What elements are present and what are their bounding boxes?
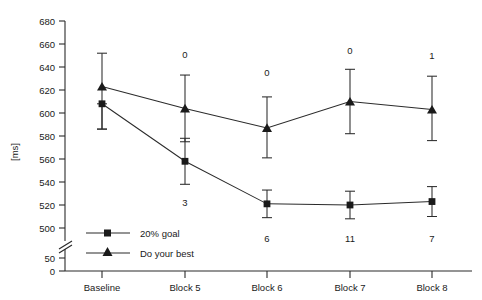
y-tick-label: 500 xyxy=(39,223,55,234)
y-tick-label: 680 xyxy=(39,16,55,27)
chart-container: [ms] xyxy=(0,0,482,300)
chart-background xyxy=(0,0,482,300)
line-chart: [ms] xyxy=(0,0,482,300)
y-tick-label: 580 xyxy=(39,131,55,142)
square-marker xyxy=(104,230,111,237)
annotation-top-block8: 1 xyxy=(429,50,434,61)
x-tick-label-baseline: Baseline xyxy=(84,282,120,293)
y-axis-title-text: [ms] xyxy=(9,143,20,161)
annotation-bottom-block5: 3 xyxy=(182,197,187,208)
data-point-square xyxy=(182,158,189,165)
annotation-top-block6: 0 xyxy=(264,67,269,78)
annotation-bottom-block7: 11 xyxy=(345,233,355,244)
data-point-square xyxy=(347,202,354,209)
x-tick-label-block7: Block 7 xyxy=(334,282,365,293)
annotation-top-block7: 0 xyxy=(347,45,352,56)
y-tick-label: 0 xyxy=(50,266,55,277)
y-tick-label: 600 xyxy=(39,108,55,119)
x-tick-label-block5: Block 5 xyxy=(169,282,200,293)
legend-label-dyb: Do your best xyxy=(140,248,194,259)
annotation-bottom-block6: 6 xyxy=(264,233,269,244)
y-tick-label: 540 xyxy=(39,177,55,188)
y-tick-label: 640 xyxy=(39,62,55,73)
y-tick-label: 520 xyxy=(39,200,55,211)
y-axis-title: [ms] xyxy=(9,143,20,161)
annotation-bottom-block8: 7 xyxy=(429,233,434,244)
y-tick-label: 50 xyxy=(44,253,55,264)
x-tick-label-block8: Block 8 xyxy=(416,282,447,293)
y-tick-label: 560 xyxy=(39,154,55,165)
x-tick-label-block6: Block 6 xyxy=(251,282,282,293)
data-point-square xyxy=(429,198,436,205)
data-point-square xyxy=(99,100,106,107)
annotation-top-block5: 0 xyxy=(182,49,187,60)
legend-label-goal: 20% goal xyxy=(140,228,180,239)
y-tick-label: 620 xyxy=(39,85,55,96)
y-tick-label: 660 xyxy=(39,39,55,50)
data-point-square xyxy=(264,200,271,207)
